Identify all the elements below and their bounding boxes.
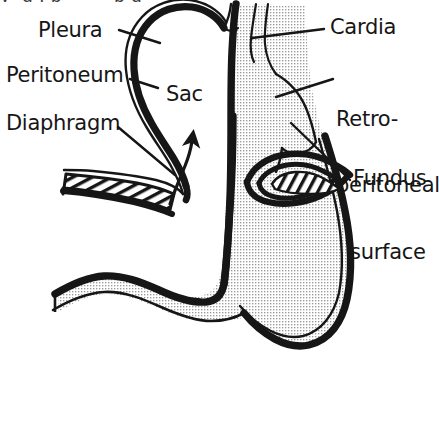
label-retroperitoneal-line1: Retro- xyxy=(336,108,439,130)
oesophagus-left-wall xyxy=(224,4,231,28)
hiatal-hernia-figure: y g , p p g xyxy=(0,0,439,425)
label-sac: Sac xyxy=(166,83,203,105)
label-peritoneum: Peritoneum xyxy=(6,64,123,86)
label-cardia: Cardia xyxy=(330,16,396,38)
hernia-sac-neck-left xyxy=(186,186,188,200)
label-fundus: Fundus xyxy=(353,167,426,189)
greater-curvature-peritoneum xyxy=(55,116,233,302)
label-diaphragm: Diaphragm xyxy=(6,112,120,134)
label-retroperitoneal-line3: surface xyxy=(336,241,439,263)
label-pleura: Pleura xyxy=(38,19,102,41)
